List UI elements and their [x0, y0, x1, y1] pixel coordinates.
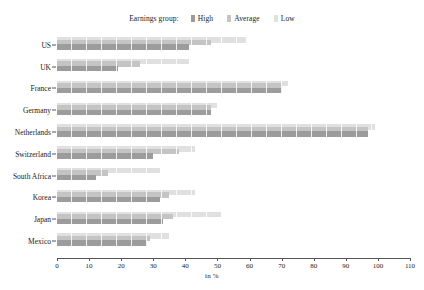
bar-group-row: Korea — [57, 187, 410, 209]
y-axis-tick — [52, 110, 56, 111]
bar-high[interactable] — [57, 153, 153, 158]
bar-high[interactable] — [57, 131, 368, 136]
y-axis-label: Japan — [34, 215, 51, 224]
y-axis-label: Germany — [23, 106, 51, 115]
x-axis-tick — [57, 258, 58, 261]
bar-group-row: Switzerland — [57, 143, 410, 165]
x-axis-tick — [378, 258, 379, 261]
y-axis-tick — [52, 66, 56, 67]
x-axis-tick — [314, 258, 315, 261]
bar-group-row: South Africa — [57, 165, 410, 187]
bar-high[interactable] — [57, 110, 211, 115]
bar-high[interactable] — [57, 66, 118, 71]
bar-high[interactable] — [57, 88, 282, 93]
bar-group-row: Netherlands — [57, 121, 410, 143]
bar-group-row: France — [57, 78, 410, 100]
x-axis-tick-label: 40 — [182, 262, 189, 270]
bar-high[interactable] — [57, 219, 163, 224]
legend-swatch-low — [274, 15, 278, 22]
y-axis-label: Switzerland — [15, 149, 51, 158]
x-axis-tick-label: 50 — [214, 262, 221, 270]
chart-legend: Earnings group: High Average Low — [0, 14, 424, 23]
plot-area: USUKFranceGermanyNetherlandsSwitzerlandS… — [57, 34, 410, 252]
x-axis-tick-label: 80 — [310, 262, 317, 270]
x-axis-tick — [410, 258, 411, 261]
x-axis-tick — [282, 258, 283, 261]
bar-high[interactable] — [57, 175, 96, 180]
x-axis-tick — [121, 258, 122, 261]
y-axis-tick — [52, 153, 56, 154]
x-axis-tick-label: 10 — [86, 262, 93, 270]
x-axis-tick — [217, 258, 218, 261]
y-axis-label: Netherlands — [15, 128, 51, 137]
y-axis-tick — [52, 197, 56, 198]
y-axis-label: South Africa — [13, 171, 51, 180]
y-axis-tick — [52, 219, 56, 220]
legend-entry-low[interactable]: Low — [274, 14, 295, 23]
y-axis-label: US — [41, 40, 51, 49]
bar-group-row: Germany — [57, 99, 410, 121]
y-axis-tick — [52, 88, 56, 89]
x-axis-tick-label: 20 — [118, 262, 125, 270]
y-axis-label: Mexico — [28, 237, 51, 246]
legend-label-high: High — [198, 14, 213, 23]
bar-group-row: Mexico — [57, 230, 410, 252]
y-axis-tick — [52, 44, 56, 45]
x-axis-tick — [250, 258, 251, 261]
x-axis-tick — [89, 258, 90, 261]
legend-swatch-average — [227, 15, 231, 22]
x-axis-tick-label: 70 — [278, 262, 285, 270]
bar-group-row: UK — [57, 56, 410, 78]
bar-high[interactable] — [57, 197, 160, 202]
x-axis-tick-label: 30 — [150, 262, 157, 270]
x-axis-tick-label: 110 — [405, 262, 415, 270]
x-axis-tick-label: 100 — [373, 262, 384, 270]
x-axis-tick-label: 60 — [246, 262, 253, 270]
legend-title: Earnings group: — [129, 14, 179, 23]
legend-label-low: Low — [281, 14, 295, 23]
y-axis-tick — [52, 241, 56, 242]
legend-label-average: Average — [234, 14, 260, 23]
bar-high[interactable] — [57, 44, 189, 49]
legend-swatch-high — [191, 15, 195, 22]
y-axis-tick — [52, 175, 56, 176]
bar-high[interactable] — [57, 240, 147, 245]
x-axis-tick-label: 0 — [55, 262, 59, 270]
x-axis-tick — [346, 258, 347, 261]
bar-group-row: US — [57, 34, 410, 56]
x-axis-title: in % — [0, 272, 424, 280]
y-axis-label: Korea — [33, 193, 51, 202]
y-axis-tick — [52, 132, 56, 133]
bar-group-row: Japan — [57, 208, 410, 230]
x-axis-tick — [153, 258, 154, 261]
legend-entry-high[interactable]: High — [191, 14, 213, 23]
x-axis-tick — [185, 258, 186, 261]
legend-entry-average[interactable]: Average — [227, 14, 260, 23]
x-axis: 0102030405060708090100110 — [57, 258, 410, 259]
x-axis-tick-label: 90 — [342, 262, 349, 270]
y-axis-label: UK — [40, 62, 51, 71]
chart-container: Earnings group: High Average Low USUKFra… — [0, 0, 424, 290]
y-axis-label: France — [31, 84, 51, 93]
